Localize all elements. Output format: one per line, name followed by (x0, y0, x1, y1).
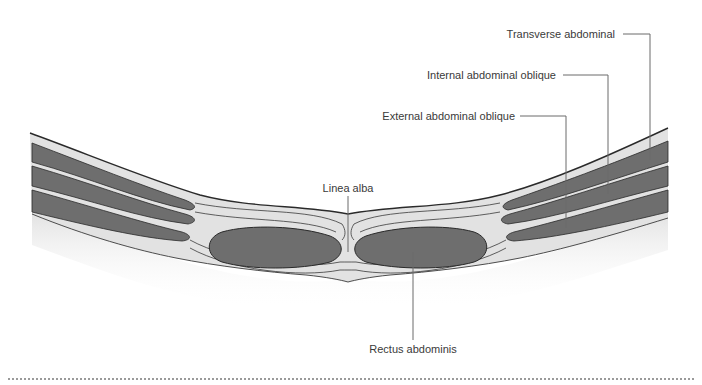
label-rectus-abdominis: Rectus abdominis (369, 343, 457, 355)
left-rectus-muscle (209, 227, 341, 268)
right-rectus-muscle (355, 227, 487, 268)
dotted-separator (8, 378, 694, 380)
label-external-abdominal-oblique: External abdominal oblique (382, 110, 515, 122)
label-linea-alba: Linea alba (323, 182, 375, 194)
label-internal-abdominal-oblique: Internal abdominal oblique (427, 69, 556, 81)
label-transverse-abdominal: Transverse abdominal (507, 28, 615, 40)
abdominal-wall-diagram: Transverse abdominal Internal abdominal … (0, 0, 702, 385)
